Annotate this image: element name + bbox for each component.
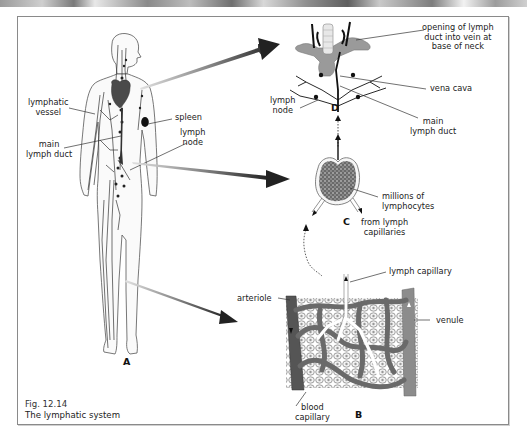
label-duct-opening: opening of lymph duct into vein at base … bbox=[422, 23, 494, 52]
panel-letter-a: A bbox=[123, 356, 130, 367]
label-arteriole: arteriole bbox=[237, 294, 272, 304]
label-spleen: spleen bbox=[175, 113, 202, 123]
panel-letter-b: B bbox=[355, 409, 362, 420]
figure-caption: Fig. 12.14 The lymphatic system bbox=[25, 399, 120, 421]
label-vena-cava: vena cava bbox=[430, 84, 472, 94]
label-lymphocytes: millions of lymphocytes bbox=[382, 192, 434, 211]
figure-title: The lymphatic system bbox=[25, 410, 120, 421]
up-arrow-d bbox=[335, 115, 341, 121]
lymph-node-section bbox=[303, 134, 362, 276]
label-lymphatic-vessel: lymphatic vessel bbox=[28, 98, 69, 117]
label-main-lymph-duct-a: main lymph duct bbox=[26, 140, 72, 159]
figure-number: Fig. 12.14 bbox=[25, 399, 120, 410]
label-from-lymph-capillaries: from lymph capillaries bbox=[361, 218, 408, 237]
label-lymph-node-a: lymph node bbox=[180, 128, 205, 147]
panel-letter-d: D bbox=[331, 102, 339, 113]
lymphatic-system-illustration bbox=[0, 0, 527, 436]
capillary-bed bbox=[286, 274, 418, 396]
label-venule: venule bbox=[436, 316, 464, 326]
vena-cava-structure bbox=[296, 22, 371, 76]
spleen-icon bbox=[141, 117, 149, 127]
label-main-lymph-duct-d: main lymph duct bbox=[410, 117, 456, 136]
label-blood-capillary: blood capillary bbox=[295, 403, 330, 422]
panel-letter-c: C bbox=[343, 216, 350, 227]
arrow-to-panel-d bbox=[140, 38, 280, 90]
label-lymph-capillary: lymph capillary bbox=[389, 267, 452, 277]
arrow-to-panel-b bbox=[125, 280, 238, 324]
label-lymph-node-d: lymph node bbox=[270, 96, 295, 115]
